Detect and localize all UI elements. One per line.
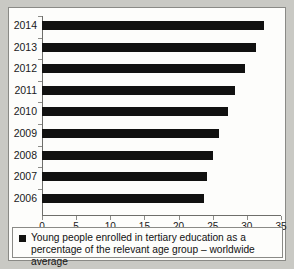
legend-swatch-icon [19, 235, 26, 242]
y-tick-label-2007: 2007 [9, 170, 37, 182]
x-tick-15 [144, 216, 145, 220]
chart-legend: Young people enrolled in tertiary educat… [12, 227, 283, 258]
y-tick-label-2009: 2009 [9, 127, 37, 139]
y-tick-label-2013: 2013 [9, 41, 37, 53]
y-tick-2009 [38, 124, 42, 125]
x-tick-25 [213, 216, 214, 220]
bar-2009 [42, 129, 219, 138]
y-tick-2011 [38, 81, 42, 82]
y-tick-2013 [38, 38, 42, 39]
y-tick-2006 [38, 189, 42, 190]
x-tick-30 [247, 216, 248, 220]
x-tick-20 [179, 216, 180, 220]
bar-2006 [42, 194, 204, 203]
chart-card: 201420132012201120102009200820072006 051… [8, 7, 286, 261]
legend-entry: Young people enrolled in tertiary educat… [19, 232, 278, 269]
x-tick-35 [281, 216, 282, 220]
y-tick-2008 [38, 146, 42, 147]
y-tick-label-2008: 2008 [9, 149, 37, 161]
y-tick-2012 [38, 59, 42, 60]
bar-2010 [42, 107, 228, 116]
y-tick-label-2011: 2011 [9, 84, 37, 96]
y-tick-2007 [38, 167, 42, 168]
x-axis-line [42, 215, 281, 216]
y-tick-label-2014: 2014 [9, 19, 37, 31]
x-tick-10 [110, 216, 111, 220]
x-tick-0 [42, 216, 43, 220]
legend-label: Young people enrolled in tertiary educat… [31, 232, 278, 269]
y-tick-2014 [38, 16, 42, 17]
bar-2008 [42, 151, 213, 160]
y-tick-label-2012: 2012 [9, 62, 37, 74]
x-tick-5 [76, 216, 77, 220]
bar-2012 [42, 64, 245, 73]
bar-2014 [42, 21, 264, 30]
plot-area: 201420132012201120102009200820072006 051… [9, 8, 287, 220]
bar-2013 [42, 43, 256, 52]
y-tick-label-2010: 2010 [9, 105, 37, 117]
bar-2007 [42, 172, 207, 181]
y-tick-label-2006: 2006 [9, 192, 37, 204]
bar-2011 [42, 86, 235, 95]
y-tick-2010 [38, 102, 42, 103]
